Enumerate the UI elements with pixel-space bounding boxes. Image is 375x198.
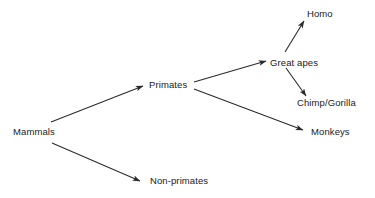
node-label-chimp_gorilla: Chimp/Gorilla (297, 97, 356, 108)
edge-mammals-to-primates (51, 86, 143, 122)
edge-primates-to-monkeys (194, 89, 303, 130)
node-label-mammals: Mammals (13, 126, 55, 137)
edge-primates-to-great-apes (194, 61, 266, 82)
node-label-non_primates: Non-primates (150, 175, 208, 186)
edge-great-apes-to-chimp-gorilla (286, 68, 306, 96)
edge-mammals-to-non-primates (52, 143, 140, 181)
node-label-primates: Primates (149, 79, 187, 90)
node-label-homo: Homo (307, 8, 333, 19)
phylogenetic-tree-diagram: MammalsPrimatesNon-primatesGreat apesHom… (0, 0, 375, 198)
node-label-monkeys: Monkeys (311, 126, 350, 137)
edge-great-apes-to-homo (285, 21, 304, 52)
node-label-great_apes: Great apes (270, 57, 318, 68)
